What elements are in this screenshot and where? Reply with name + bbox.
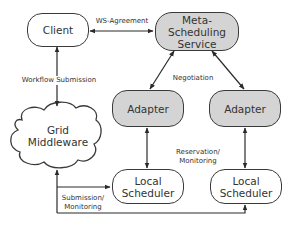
reservation-monitoring-label: Reservation/ Monitoring (168, 148, 228, 165)
adapter-right-label: Adapter (224, 103, 266, 115)
negotiation-label: Negotiation (168, 74, 218, 83)
edge-negotiation-right (212, 51, 244, 89)
ws-agreement-label: WS-Agreement (92, 17, 152, 26)
architecture-diagram: Client Meta- Scheduling Service Adapter … (0, 0, 298, 229)
adapter-left-node: Adapter (112, 90, 184, 127)
client-label: Client (43, 24, 73, 36)
grid-middleware-label: Grid Middleware (18, 124, 98, 148)
meta-scheduling-service-node: Meta- Scheduling Service (155, 12, 239, 51)
workflow-submission-label: Workflow Submission (18, 76, 100, 85)
submission-monitoring-label: Submission/ Monitoring (58, 194, 108, 211)
edge-negotiation-left (150, 51, 174, 89)
adapter-left-label: Adapter (127, 103, 169, 115)
local-scheduler-left-label: Local Scheduler (122, 175, 175, 199)
client-node: Client (27, 13, 89, 47)
adapter-right-node: Adapter (209, 90, 281, 127)
local-scheduler-left-node: Local Scheduler (112, 169, 184, 204)
local-scheduler-right-label: Local Scheduler (220, 175, 273, 199)
meta-scheduling-label: Meta- Scheduling Service (168, 14, 226, 50)
local-scheduler-right-node: Local Scheduler (210, 169, 282, 204)
